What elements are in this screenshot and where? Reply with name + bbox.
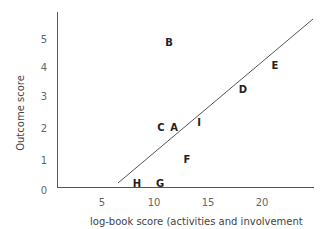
y-tick: 4 xyxy=(41,62,47,73)
y-tick: 0 xyxy=(41,185,47,196)
data-points: A B C D E F G H I xyxy=(133,37,279,189)
point-label-f: F xyxy=(184,154,191,165)
x-tick: 20 xyxy=(256,197,269,208)
y-tick: 2 xyxy=(41,123,47,134)
point-label-i: I xyxy=(197,117,201,128)
y-tick: 1 xyxy=(41,155,47,166)
y-tick: 3 xyxy=(41,91,47,102)
x-axis-title: log-book score (activities and involveme… xyxy=(90,216,303,227)
trend-line xyxy=(118,19,313,183)
point-label-h: H xyxy=(133,178,141,189)
y-axis-title: Outcome score xyxy=(15,75,26,151)
y-tick-labels: 0 1 2 3 4 5 xyxy=(41,34,47,196)
x-tick-labels: 5 10 15 20 xyxy=(99,197,269,208)
point-label-a: A xyxy=(170,122,178,133)
point-label-b: B xyxy=(165,37,173,48)
point-label-d: D xyxy=(239,84,247,95)
y-tick: 5 xyxy=(41,34,47,45)
x-tick: 5 xyxy=(99,197,105,208)
scatter-chart: 0 1 2 3 4 5 5 10 15 20 log-book score (a… xyxy=(0,0,332,229)
x-tick: 15 xyxy=(202,197,215,208)
x-tick: 10 xyxy=(148,197,161,208)
point-label-e: E xyxy=(272,60,279,71)
point-label-g: G xyxy=(156,178,164,189)
point-label-c: C xyxy=(157,122,164,133)
